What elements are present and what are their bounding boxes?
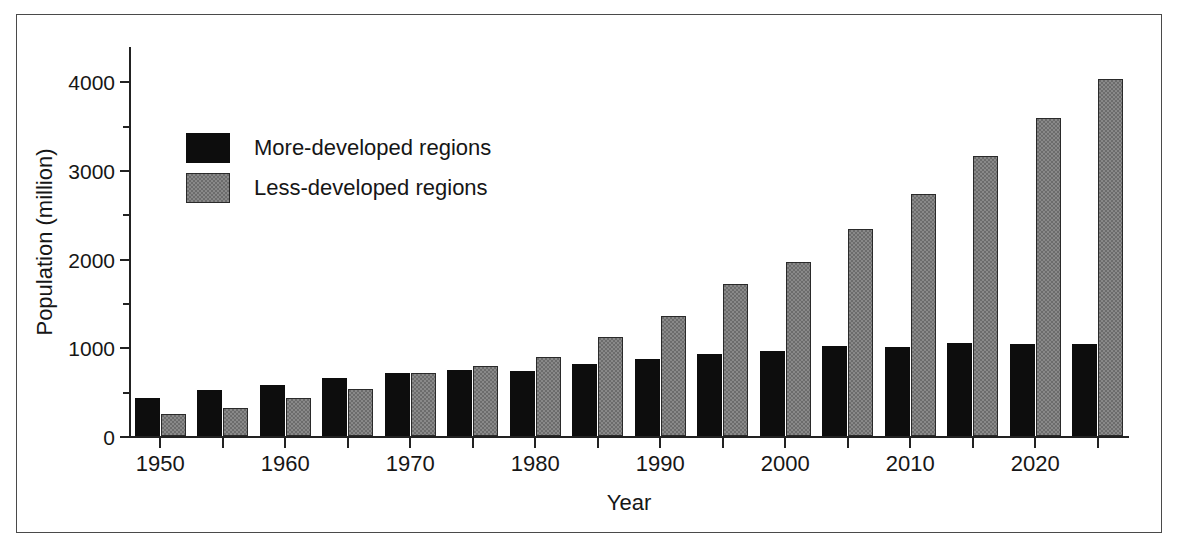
figure-canvas: Population (million) Year 01000200030004… <box>0 0 1179 553</box>
bar-1970-less-developed <box>411 373 436 436</box>
x-axis-tick-label: 1950 <box>136 453 185 475</box>
bar-1985-less-developed <box>598 337 623 436</box>
y-axis-tick-label: 4000 <box>68 72 115 93</box>
y-axis-tick-major <box>120 259 129 261</box>
bar-2000-more-developed <box>760 351 785 436</box>
x-axis-tick <box>784 438 786 448</box>
legend-swatch-less-developed-icon <box>186 173 230 203</box>
x-axis-tick-label: 2020 <box>1011 453 1060 475</box>
bar-2005-more-developed <box>822 346 847 436</box>
chart-legend: More-developed regions Less-developed re… <box>186 128 491 208</box>
x-axis-tick-label: 1960 <box>261 453 310 475</box>
bar-1955-more-developed <box>197 390 222 436</box>
bar-2005-less-developed <box>848 229 873 436</box>
bar-1965-less-developed <box>348 389 373 436</box>
y-axis-tick-label: 2000 <box>68 249 115 270</box>
bar-2025-more-developed <box>1072 344 1097 436</box>
legend-item-less-developed: Less-developed regions <box>186 168 491 208</box>
x-axis-tick-label: 1970 <box>386 453 435 475</box>
bar-1965-more-developed <box>322 378 347 436</box>
y-axis-tick-minor <box>123 126 129 128</box>
bar-2010-less-developed <box>911 194 936 436</box>
bar-2025-less-developed <box>1098 79 1123 436</box>
y-axis-line <box>129 47 131 437</box>
x-axis-line <box>129 436 1129 438</box>
bar-1950-less-developed <box>161 414 186 436</box>
x-axis-tick <box>409 438 411 448</box>
bar-1960-more-developed <box>260 385 285 436</box>
bar-1980-more-developed <box>510 371 535 436</box>
bar-2015-less-developed <box>973 156 998 436</box>
x-axis-title: Year <box>129 490 1129 516</box>
bar-1950-more-developed <box>135 398 160 436</box>
x-axis-tick-label: 2010 <box>886 453 935 475</box>
y-axis-tick-label: 1000 <box>68 338 115 359</box>
x-axis-tick-label: 1980 <box>511 453 560 475</box>
y-axis-tick-minor <box>123 392 129 394</box>
y-axis-tick-major <box>120 81 129 83</box>
bar-2015-more-developed <box>947 343 972 436</box>
x-axis-tick <box>222 438 224 448</box>
x-axis-tick-label: 1990 <box>636 453 685 475</box>
x-axis-tick <box>347 438 349 448</box>
bar-2020-less-developed <box>1036 118 1061 436</box>
x-axis-tick <box>972 438 974 448</box>
bar-1980-less-developed <box>536 357 561 436</box>
y-axis-tick-major <box>120 347 129 349</box>
x-axis-tick <box>159 438 161 448</box>
x-axis-tick <box>847 438 849 448</box>
bar-1995-less-developed <box>723 284 748 436</box>
y-axis-tick-major <box>120 170 129 172</box>
bar-1990-less-developed <box>661 316 686 436</box>
legend-swatch-more-developed-icon <box>186 133 230 163</box>
x-axis-tick <box>597 438 599 448</box>
x-axis-tick <box>909 438 911 448</box>
legend-label-more-developed: More-developed regions <box>254 135 491 161</box>
x-axis-tick <box>1097 438 1099 448</box>
x-axis-tick <box>472 438 474 448</box>
x-axis-tick <box>659 438 661 448</box>
y-axis-tick-label: 0 <box>103 427 115 448</box>
x-axis-tick-label: 2000 <box>761 453 810 475</box>
bar-1990-more-developed <box>635 359 660 436</box>
plot-area: 01000200030004000 1950196019701980199020… <box>129 47 1129 437</box>
x-axis-tick <box>534 438 536 448</box>
bar-2020-more-developed <box>1010 344 1035 436</box>
bar-1955-less-developed <box>223 408 248 436</box>
y-axis-tick-minor <box>123 214 129 216</box>
bar-1995-more-developed <box>697 354 722 436</box>
x-axis-tick <box>284 438 286 448</box>
bar-2000-less-developed <box>786 262 811 436</box>
legend-label-less-developed: Less-developed regions <box>254 175 488 201</box>
x-axis-tick <box>1034 438 1036 448</box>
x-axis-tick <box>722 438 724 448</box>
legend-item-more-developed: More-developed regions <box>186 128 491 168</box>
y-axis-tick-minor <box>123 303 129 305</box>
y-axis-tick-label: 3000 <box>68 161 115 182</box>
y-axis-title: Population (million) <box>30 47 60 437</box>
y-axis-tick-major <box>120 436 129 438</box>
bar-1985-more-developed <box>572 364 597 436</box>
bar-2010-more-developed <box>885 347 910 436</box>
bar-1970-more-developed <box>385 373 410 436</box>
bar-1975-more-developed <box>447 370 472 436</box>
bar-1975-less-developed <box>473 366 498 436</box>
bar-1960-less-developed <box>286 398 311 436</box>
